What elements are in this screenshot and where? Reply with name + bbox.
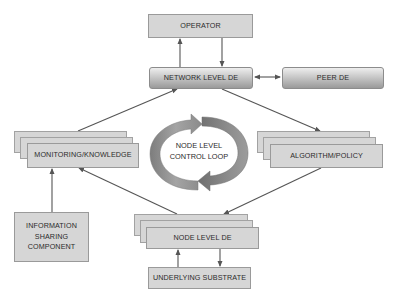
operator-box: OPERATOR bbox=[148, 14, 253, 38]
information-sharing-line-1: INFORMATION bbox=[26, 221, 77, 231]
algorithm-policy-label: ALGORITHM/POLICY bbox=[290, 151, 363, 161]
operator-label: OPERATOR bbox=[180, 21, 220, 31]
arrow-monitoring-to-network bbox=[78, 89, 177, 131]
monitoring-knowledge-label: MONITORING/KNOWLEDGE bbox=[34, 150, 131, 160]
algorithm-policy-box: ALGORITHM/POLICY bbox=[270, 144, 383, 168]
arrow-network-to-algorithm bbox=[222, 89, 320, 131]
control-loop-line-2: CONTROL LOOP bbox=[164, 151, 234, 162]
node-level-de-label: NODE LEVEL DE bbox=[173, 233, 231, 243]
control-loop-line-1: NODE LEVEL bbox=[164, 140, 234, 151]
information-sharing-line-3: COMPONENT bbox=[28, 242, 76, 252]
underlying-substrate-label: UNDERLYING SUBSTRATE bbox=[153, 273, 246, 283]
underlying-substrate-box: UNDERLYING SUBSTRATE bbox=[148, 267, 251, 289]
information-sharing-line-2: SHARING bbox=[35, 232, 68, 242]
monitoring-knowledge-box: MONITORING/KNOWLEDGE bbox=[27, 143, 139, 168]
network-level-de-label: NETWORK LEVEL DE bbox=[164, 73, 238, 83]
node-level-de-box: NODE LEVEL DE bbox=[146, 227, 259, 249]
network-level-de-box: NETWORK LEVEL DE bbox=[149, 67, 253, 89]
control-loop-label: NODE LEVEL CONTROL LOOP bbox=[164, 140, 234, 162]
peer-de-label: PEER DE bbox=[317, 73, 349, 83]
peer-de-box: PEER DE bbox=[282, 67, 384, 89]
information-sharing-box: INFORMATION SHARING COMPONENT bbox=[14, 212, 89, 262]
